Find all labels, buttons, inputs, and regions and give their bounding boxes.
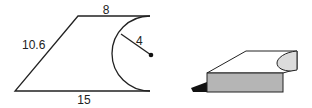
trapezoid-figure — [15, 16, 151, 91]
semicircle-cutout — [112, 16, 150, 91]
top-length-label: 8 — [103, 3, 110, 17]
bottom-length-label: 15 — [77, 93, 91, 107]
solid-block-figure — [191, 51, 297, 92]
center-dot — [149, 53, 154, 58]
slant-length-label: 10.6 — [22, 38, 46, 52]
diagram-canvas: 8 10.6 15 4 — [0, 0, 312, 108]
radius-label: 4 — [136, 34, 143, 48]
trapezoid-outline — [15, 16, 150, 91]
shadow-wedge — [191, 82, 207, 92]
front-face — [207, 73, 283, 92]
